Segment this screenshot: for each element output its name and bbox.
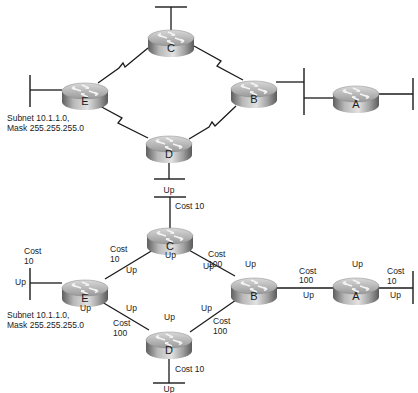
bottom-router-d[interactable]: D [146, 332, 192, 359]
router-label: D [165, 344, 173, 356]
db-up-d-label: Up [201, 303, 212, 313]
top-serial-link-d-b [189, 106, 236, 139]
ed-up-d-label: Up [164, 312, 175, 322]
cb-up-c-label: Up [203, 261, 214, 271]
ec-up-c-label: Up [165, 250, 176, 260]
top-serial-link-e-c [98, 48, 148, 83]
e-up-under-label: Up [80, 303, 91, 313]
top-mask-label: Mask 255.255.255.0 [7, 123, 84, 133]
top-router-b[interactable]: B [231, 81, 277, 108]
top-router-a[interactable]: A [333, 86, 379, 113]
bottom-mask-label: Mask 255.255.255.0 [7, 320, 84, 330]
router-label: B [250, 93, 257, 105]
a-up-top-label: Up [352, 259, 363, 269]
ba-up-label: Up [303, 290, 314, 300]
cb-cost-label: Cost [208, 249, 226, 259]
e-lan-up-label: Up [15, 277, 26, 287]
ec-up-e-label: Up [126, 265, 137, 275]
top-router-d[interactable]: D [146, 136, 192, 163]
bottom-router-a[interactable]: A [333, 278, 379, 305]
e-lan-cost-label: Cost [24, 246, 42, 256]
top-diagram: C E B A D Subnet 10.1.1.0, Mask 255.255.… [7, 7, 413, 179]
d-bottom-cost-label: Cost 10 [175, 364, 205, 374]
ba-cost-value: 100 [299, 275, 313, 285]
top-serial-link-e-d [98, 105, 148, 138]
c-top-cost-label: Cost 10 [175, 201, 205, 211]
divider-up-label: Up [164, 185, 175, 195]
router-label: D [165, 148, 173, 160]
db-cost-label: Cost [213, 316, 231, 326]
b-up-top-label: Up [245, 259, 256, 269]
ec-cost-label: Cost [110, 244, 128, 254]
a-lan-cost-label: Cost [387, 266, 405, 276]
d-bottom-up-label: Up [164, 384, 175, 393]
network-diagram: C E B A D Subnet 10.1.1.0, Mask 255.255.… [0, 0, 418, 393]
router-label: C [167, 42, 175, 54]
e-lan-cost-value: 10 [24, 256, 34, 266]
top-router-e[interactable]: E [62, 83, 108, 110]
a-lan-up-label: Up [390, 290, 401, 300]
bottom-subnet-label: Subnet 10.1.1.0, [7, 310, 69, 320]
ed-up-e-label: Up [126, 303, 137, 313]
router-label: E [81, 95, 88, 107]
ec-cost-value: 10 [110, 254, 120, 264]
ed-cost-value: 100 [113, 328, 127, 338]
a-lan-cost-value: 10 [387, 276, 397, 286]
db-cost-value: 100 [213, 326, 227, 336]
router-label: A [352, 290, 360, 302]
router-label: B [250, 290, 257, 302]
top-router-c[interactable]: C [148, 30, 194, 57]
ed-cost-label: Cost [113, 318, 131, 328]
bottom-diagram: C E B A D Cost 10 Cost 10 Up Cost 10 Up … [7, 197, 413, 393]
router-label: A [352, 98, 360, 110]
top-subnet-label: Subnet 10.1.1.0, [7, 113, 69, 123]
top-serial-link-c-b [194, 46, 243, 80]
bottom-router-b[interactable]: B [231, 278, 277, 305]
